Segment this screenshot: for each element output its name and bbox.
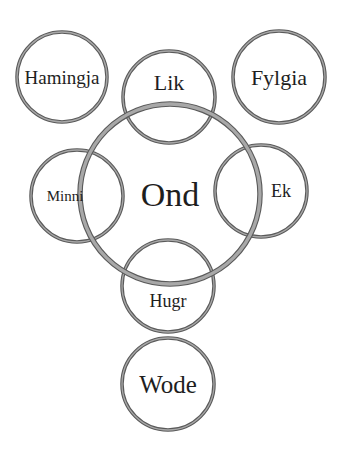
node-label-hugr: Hugr — [150, 291, 187, 311]
concept-diagram: Hamingja Lik Fylgia Minni Ond Ek Hugr Wo… — [0, 0, 344, 461]
circle-lik — [123, 51, 215, 143]
node-label-fylgia: Fylgia — [251, 65, 307, 90]
node-label-lik: Lik — [154, 70, 185, 95]
node-label-hamingja: Hamingja — [25, 67, 100, 88]
label-layer: Hamingja Lik Fylgia Minni Ond Ek Hugr Wo… — [25, 65, 308, 398]
node-label-wode: Wode — [139, 371, 197, 398]
circle-highlight-lik — [123, 51, 215, 143]
node-label-ond: Ond — [141, 176, 200, 213]
node-label-minni: Minni — [47, 188, 84, 204]
node-label-ek: Ek — [271, 181, 291, 201]
